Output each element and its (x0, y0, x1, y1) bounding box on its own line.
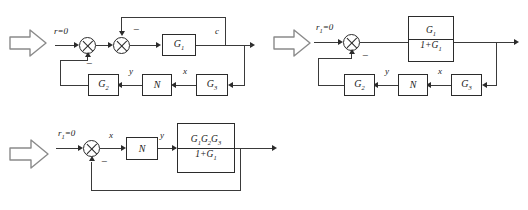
wire-outer-fb-down (244, 45, 245, 85)
input-label: r1=0 (316, 22, 333, 34)
block-g2: G2 (344, 74, 375, 96)
block-g3: G3 (196, 74, 228, 96)
wire-input (55, 45, 75, 46)
wire-fb-to-sum (318, 58, 352, 59)
wire-input (56, 148, 80, 149)
figure-canvas: r=0 − − G1 c (0, 0, 528, 210)
wire-g2-left (60, 85, 88, 86)
wire-sum2-g1 (130, 45, 158, 46)
wire-sum-forward (360, 42, 408, 43)
wire-fb-up (60, 60, 61, 85)
wire-fb-bottom (91, 190, 241, 191)
signal-label-x: x (183, 66, 187, 76)
wire-fb-up (91, 162, 92, 190)
sign-minus-main: − (101, 156, 107, 167)
block-arrow-right-icon (8, 28, 48, 58)
wire-fb-up (318, 58, 319, 85)
wire-g3-n (429, 85, 451, 86)
arrowhead-output (272, 145, 277, 151)
summing-junction-inner (113, 37, 130, 54)
wire-fb-sum-stub (351, 54, 352, 59)
wire-forward-out (235, 148, 275, 149)
diagram-original: r=0 − − G1 c (0, 0, 264, 110)
wire-inner-fb-up (225, 17, 226, 45)
block-numerator: G1G2G3 (188, 135, 224, 147)
signal-label-y: y (160, 130, 164, 140)
sign-minus-main: − (362, 50, 368, 61)
arrowhead-g3-in (228, 82, 233, 88)
wire-g3-n (174, 85, 196, 86)
block-overall-transfer: G1G2G3 1+G1 (177, 123, 235, 173)
summing-junction-main (83, 140, 100, 157)
wire-fb-down (496, 42, 497, 85)
block-n-label: N (410, 80, 417, 90)
signal-label-x: x (109, 130, 113, 140)
arrowhead-inner-fb (119, 31, 125, 36)
arrowhead-g1-in (156, 42, 161, 48)
block-closed-loop-inner: G1 1+G1 (408, 16, 454, 62)
wire-n-g2 (120, 85, 142, 86)
block-n: N (126, 137, 158, 160)
block-g2-label: G2 (98, 79, 108, 92)
arrowhead-sum1-fb (85, 52, 91, 57)
signal-label-x: x (438, 66, 442, 76)
block-numerator: G1 (423, 26, 439, 38)
wire-fb-to-g3 (232, 85, 245, 86)
signal-label-y: y (385, 66, 389, 76)
input-label: r1=0 (58, 128, 75, 140)
block-n: N (142, 74, 172, 96)
block-arrow-right-icon (272, 28, 312, 58)
arrowhead-sum-fb (89, 156, 95, 161)
block-g1-label: G1 (174, 39, 184, 52)
signal-label-y: y (129, 66, 133, 76)
wire-input (314, 42, 340, 43)
wire-fb-to-g3 (486, 85, 497, 86)
block-denominator: 1+G1 (417, 40, 444, 52)
wire-g1-out (196, 45, 244, 46)
block-arrow-right-icon (8, 138, 50, 170)
wire-out-tail (244, 45, 252, 46)
block-g3-label: G3 (461, 79, 471, 92)
block-n: N (398, 74, 428, 96)
wire-fb-to-sum1 (60, 60, 88, 61)
block-g3: G3 (451, 74, 482, 96)
block-denominator: 1+G1 (192, 149, 219, 161)
wire-n-g2 (376, 85, 398, 86)
wire-forward-out (454, 42, 516, 43)
block-n-label: N (154, 80, 161, 90)
input-label: r=0 (54, 26, 68, 36)
arrowhead-g3-in (482, 82, 487, 88)
arrowhead-sum-fb (349, 49, 355, 54)
block-g2-label: G2 (354, 79, 364, 92)
diagram-inner-reduced: r1=0 − G1 1+G1 G3 x (264, 0, 528, 110)
block-g1: G1 (162, 34, 196, 56)
arrowhead-output (514, 39, 519, 45)
sign-minus-inner: − (133, 24, 139, 35)
block-g2: G2 (88, 74, 119, 96)
wire-g2-left (318, 85, 344, 86)
wire-inner-fb-top (121, 17, 226, 18)
wire-fb-down (240, 148, 241, 190)
block-n-label: N (139, 144, 146, 154)
output-label: c (215, 26, 219, 36)
block-g3-label: G3 (207, 79, 217, 92)
diagram-final-reduced: r1=0 − x N y G1G2G3 1+G1 (0, 110, 290, 210)
